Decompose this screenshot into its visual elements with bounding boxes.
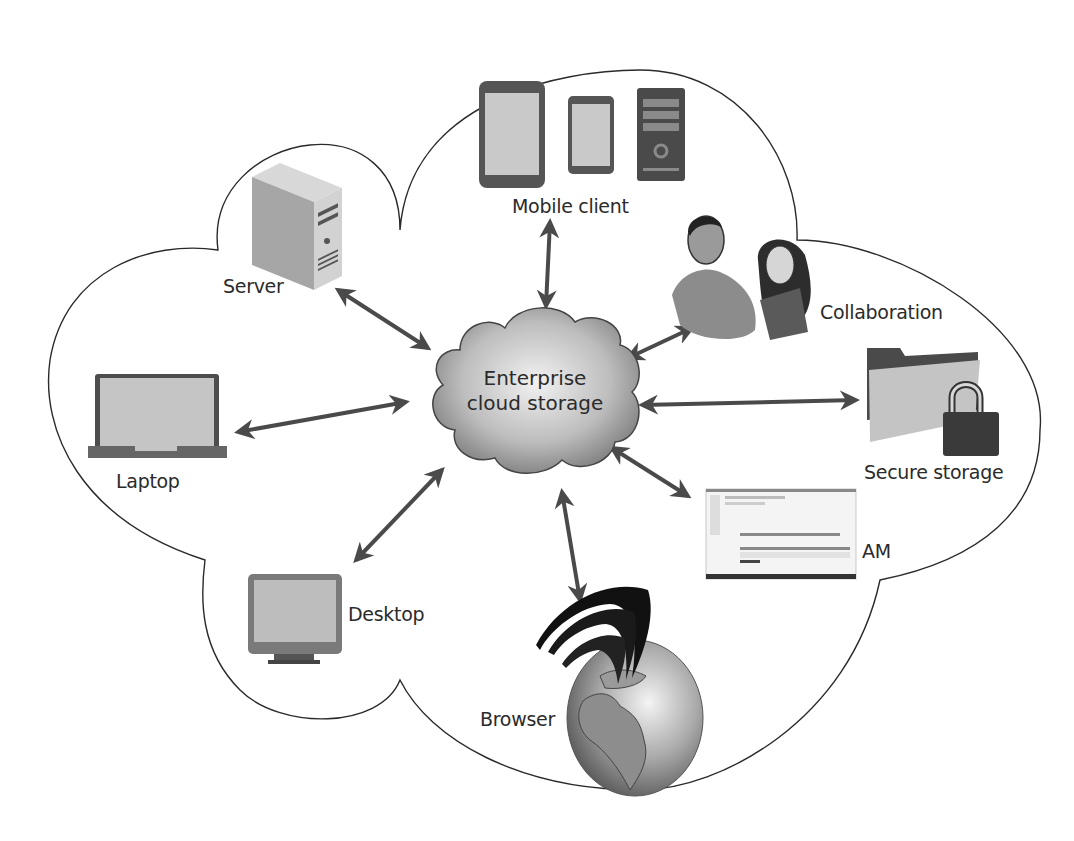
label-desktop: Desktop: [348, 603, 424, 625]
label-server: Server: [223, 275, 284, 297]
center-label-line2: cloud storage: [430, 391, 640, 416]
center-label-line1: Enterprise: [430, 366, 640, 391]
locked-folder-icon: [867, 348, 999, 456]
arrow-am: [612, 448, 688, 496]
arrow-desktop: [356, 470, 442, 560]
people-icon: [672, 216, 811, 340]
cloud-storage-diagram: Enterprise cloud storage Mobile client S…: [0, 0, 1074, 841]
label-browser: Browser: [480, 708, 555, 730]
globe-icon: [536, 587, 703, 796]
desktop-monitor-icon: [248, 574, 342, 664]
label-collaboration: Collaboration: [820, 301, 943, 323]
laptop-icon: [88, 374, 227, 458]
label-mobile-client: Mobile client: [512, 195, 629, 217]
center-node-label: Enterprise cloud storage: [430, 366, 640, 416]
arrow-laptop: [238, 402, 406, 432]
arrow-mobile: [546, 222, 550, 306]
label-am: AM: [862, 540, 891, 562]
arrow-server: [338, 290, 428, 348]
application-window-icon: [706, 489, 856, 579]
arrow-secure: [642, 400, 856, 405]
mobile-devices-icon: [479, 81, 685, 188]
label-secure-storage: Secure storage: [864, 461, 1003, 483]
arrow-collaboration: [628, 328, 692, 358]
arrow-browser: [562, 492, 580, 600]
server-tower-icon: [252, 163, 342, 290]
label-laptop: Laptop: [116, 470, 180, 492]
